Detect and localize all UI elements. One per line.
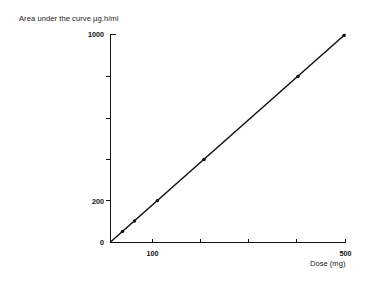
fit-line [111, 35, 346, 243]
data-point [121, 230, 124, 233]
x-axis-title: Dose (mg) [310, 259, 345, 268]
data-point [133, 219, 136, 222]
y-tick-label-200: 200 [92, 197, 104, 206]
y-tick-label-0: 0 [100, 238, 104, 247]
data-point [296, 75, 299, 78]
chart-figure: Area under the curve µg.h/ml [0, 0, 379, 283]
chart-plot-area: 1000 200 0 100 500 [0, 0, 379, 283]
x-tick-label-100: 100 [147, 249, 159, 258]
data-point [342, 34, 345, 37]
y-tick-label-1000: 1000 [88, 30, 104, 39]
x-tick-label-500: 500 [340, 249, 352, 258]
data-point [202, 158, 205, 161]
data-point [156, 199, 159, 202]
